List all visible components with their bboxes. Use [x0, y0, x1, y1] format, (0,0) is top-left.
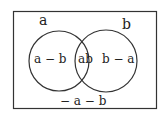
label-intersection: ab — [78, 53, 93, 65]
label-set-a: a — [39, 13, 47, 27]
label-only-b: b − a — [102, 53, 135, 65]
label-set-b: b — [122, 17, 131, 31]
label-outside: − a − b — [60, 95, 106, 107]
label-only-a: a − b — [34, 53, 67, 65]
